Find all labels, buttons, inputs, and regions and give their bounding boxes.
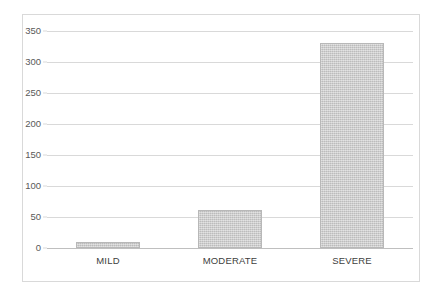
y-tick-label: 150: [25, 150, 41, 160]
chart-frame: 350 300 250 200 150 100: [22, 14, 420, 282]
bar-slot-moderate: [169, 31, 291, 248]
bar-mild[interactable]: [76, 242, 140, 248]
y-tick-label: 250: [25, 88, 41, 98]
y-tick-label: 350: [25, 26, 41, 36]
y-tick-label: 50: [30, 212, 41, 222]
y-tick-label: 100: [25, 181, 41, 191]
y-tick-label: 200: [25, 119, 41, 129]
x-label-severe: SEVERE: [291, 256, 413, 266]
bar-severe[interactable]: [320, 43, 384, 248]
x-label-moderate: MODERATE: [169, 256, 291, 266]
y-tick-label: 0: [36, 243, 41, 253]
bar-slot-severe: [291, 31, 413, 248]
bar-series: [47, 31, 413, 248]
x-label-mild: MILD: [47, 256, 169, 266]
x-axis-labels: MILD MODERATE SEVERE: [47, 256, 413, 266]
bar-moderate[interactable]: [198, 210, 262, 248]
plot-area: 350 300 250 200 150 100: [47, 31, 413, 248]
bar-slot-mild: [47, 31, 169, 248]
y-tick-label: 300: [25, 57, 41, 67]
